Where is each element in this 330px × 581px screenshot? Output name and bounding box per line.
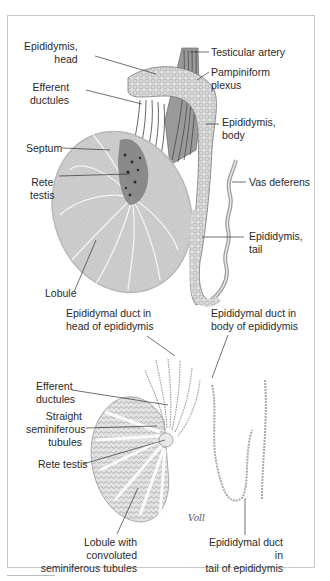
label-duct-head: Epididymal duct in head of epididymis xyxy=(66,307,154,333)
label-epididymis-body: Epididymis, body xyxy=(222,116,276,142)
label-duct-body: Epididymal duct in body of epididymis xyxy=(211,307,298,333)
label-straight-tubules: Straight seminiferous tubules xyxy=(26,410,82,449)
label-pampiniform-plexus: Pampiniform plexus xyxy=(211,66,270,92)
label-efferent-ductules: Efferent ductules xyxy=(30,81,69,107)
bottom-illustration xyxy=(91,358,266,522)
rete-testis-lower xyxy=(159,433,173,447)
label-efferent-ductules-lower: Efferent ductules xyxy=(36,380,75,406)
artist-signature: Voll xyxy=(188,512,205,525)
footer-rule xyxy=(7,575,55,576)
label-rete-testis: Rete testis xyxy=(30,176,55,202)
label-septum: Septum xyxy=(26,142,62,155)
label-epididymis-tail: Epididymis, tail xyxy=(249,230,303,256)
label-testicular-artery: Testicular artery xyxy=(211,46,285,59)
label-vas-deferens: Vas deferens xyxy=(249,176,310,189)
label-duct-tail: Epididymal duct in tail of epididymis xyxy=(205,536,283,575)
duct-body-tail xyxy=(212,385,252,501)
label-epididymis-head: Epididymis, head xyxy=(24,40,78,66)
label-rete-testis-lower: Rete testis xyxy=(38,458,88,471)
vas-deferens xyxy=(208,160,236,302)
label-lobule: Lobule xyxy=(45,287,77,300)
testis-section xyxy=(91,397,169,522)
label-lobule-convoluted: Lobule with convoluted seminiferous tubu… xyxy=(38,536,137,575)
